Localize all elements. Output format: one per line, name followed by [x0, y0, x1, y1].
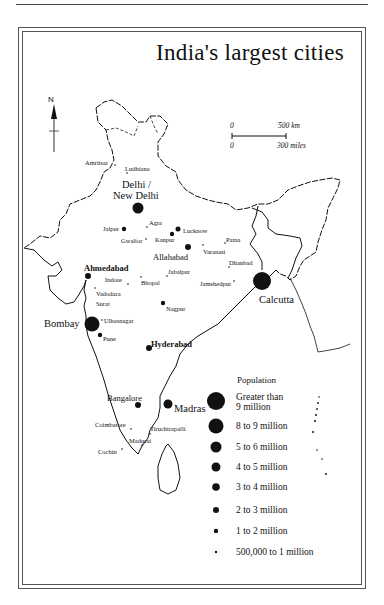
city-label-agra: Agra [149, 219, 162, 226]
dot-varanasi [202, 244, 204, 246]
city-label-surat: Surat [96, 300, 110, 307]
dot-nagpur [161, 301, 165, 305]
dot-bombay [85, 317, 100, 332]
dot-dhanbad [228, 266, 230, 268]
city-label-amritsar: Amritsar [85, 159, 108, 166]
city-label-pune: Pune [103, 335, 116, 342]
city-label-jamshedpur: Jamshedpur [200, 280, 231, 287]
city-label-tiruchirapalli: Tiruchirapalli [150, 425, 186, 432]
legend-item-5-6: 5 to 6 million [236, 442, 287, 452]
dot-madurai [141, 444, 143, 446]
city-label-bangalore: Bangalore [107, 393, 142, 403]
legend-title: Population [237, 375, 276, 385]
dot-allahabad [185, 244, 191, 250]
dot-agra [146, 226, 148, 228]
city-label-kanpur: Kanpur [155, 236, 175, 243]
dot-bhopal [140, 276, 142, 278]
city-label-hyderabad: Hyderabad [151, 339, 192, 349]
city-label-bombay: Bombay [44, 318, 80, 329]
dot-delhi [133, 203, 144, 214]
sri-lanka [158, 444, 180, 494]
legend-item-1-2: 1 to 2 million [236, 526, 287, 536]
city-label-vadodara: Vadodara [96, 290, 121, 297]
dot-ulhasnagar [101, 319, 103, 321]
city-label-indore: Indore [105, 276, 122, 283]
city-label-jabalpur: Jabalpur [168, 268, 190, 275]
dot-ludhiana [126, 172, 128, 174]
city-label-nagpur: Nagpur [166, 305, 186, 312]
west-border [24, 108, 114, 248]
city-label-madurai: Madurai [129, 437, 151, 444]
city-label-madras: Madras [174, 403, 206, 414]
legend-item-3-4: 3 to 4 million [236, 482, 287, 492]
city-label-varanasi: Varanasi [203, 248, 225, 255]
legend-item-4-5: 4 to 5 million [236, 462, 287, 472]
scale-bar [232, 133, 286, 139]
scale-km-end: 500 km [278, 121, 300, 130]
dot-pune [98, 333, 102, 337]
city-label-coimbatore: Coimbatore [95, 421, 126, 428]
dot-lucknow [176, 227, 181, 232]
scale-mi-start: 0 [230, 141, 234, 150]
dot-amritsar [114, 164, 116, 166]
dot-madras [164, 400, 173, 409]
dot-coimbatore [130, 428, 132, 430]
dot-gwalior [145, 238, 147, 240]
pakistan-dashed [106, 116, 158, 136]
legend-symbols [207, 392, 225, 553]
city-label-ludhiana: Ludhiana [125, 165, 150, 172]
city-label-jaipur: Jaipur [103, 225, 119, 232]
city-label-delhi-1: Delhi / [122, 179, 151, 190]
dot-indore [127, 283, 129, 285]
city-label-ulhasnagar: Ulhasnagar [104, 317, 134, 324]
city-label-calcutta: Calcutta [259, 294, 294, 305]
dot-vadodara [94, 287, 96, 289]
north-arrow-icon [49, 104, 59, 152]
city-label-patna: Patna [226, 236, 240, 243]
scale-mi-end: 300 miles [277, 141, 306, 150]
city-label-dhanbad: Dhanbad [229, 259, 252, 266]
compass-label: N [48, 95, 54, 104]
legend-item-500k-1m: 500,000 to 1 million [236, 547, 314, 557]
dot-tiruchirapalli [149, 433, 151, 435]
andaman-islands [312, 396, 327, 475]
scale-km-start: 0 [230, 121, 234, 130]
dot-calcutta [253, 272, 271, 290]
bangladesh-border [250, 206, 302, 278]
dot-jaipur [122, 227, 126, 231]
city-label-bhopal: Bhopal [141, 279, 160, 286]
dot-jamshedpur [233, 280, 235, 282]
city-label-lucknow: Lucknow [183, 227, 208, 234]
legend-item-2-3: 2 to 3 million [236, 505, 287, 515]
city-label-delhi-2: New Delhi [113, 190, 159, 201]
city-label-ahmedabad: Ahmedabad [84, 263, 128, 273]
legend-item-8-9: 8 to 9 million [236, 421, 287, 431]
dot-jabalpur [166, 275, 168, 277]
northeast-coast [290, 278, 350, 352]
dot-ahmedabad [85, 273, 91, 279]
legend-item-gt9: Greater than 9 million [236, 392, 283, 412]
city-label-cochin: Cochin [98, 448, 117, 455]
city-label-allahabad: Allahabad [153, 252, 188, 262]
india-map [0, 0, 384, 605]
city-label-gwalior: Gwalior [121, 237, 142, 244]
dot-cochin [121, 448, 123, 450]
